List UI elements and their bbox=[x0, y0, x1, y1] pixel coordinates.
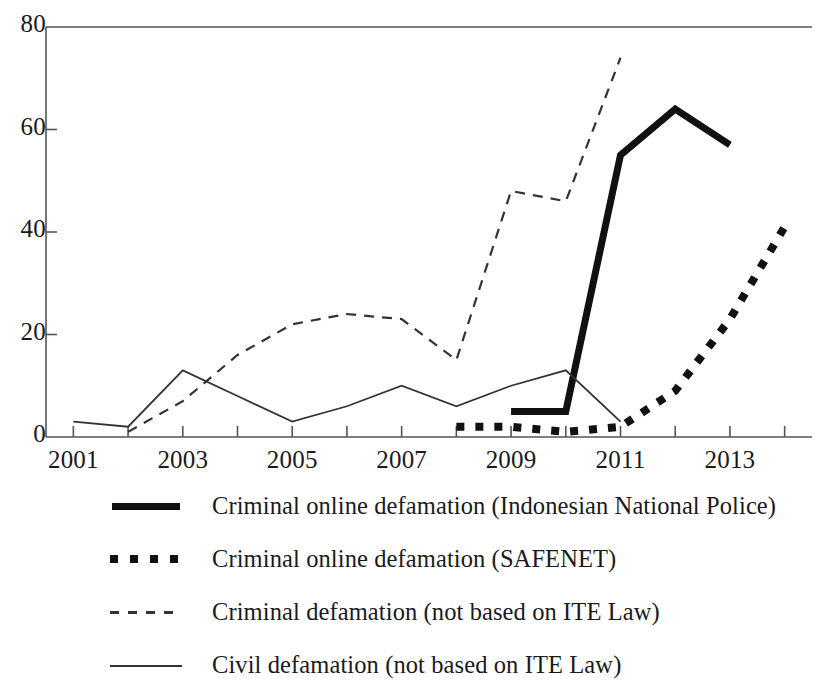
y-axis-tick-label: 80 bbox=[0, 10, 46, 38]
legend-item[interactable]: Criminal online defamation (Indonesian N… bbox=[108, 480, 776, 532]
legend-item[interactable]: Criminal defamation (not based on ITE La… bbox=[108, 586, 660, 638]
legend-dashed-line-icon bbox=[108, 602, 184, 622]
chart-axes bbox=[46, 27, 812, 437]
legend-item-label: Criminal defamation (not based on ITE La… bbox=[212, 598, 660, 626]
chart-page: 020406080 2001200320052007200920112013 C… bbox=[0, 0, 819, 695]
legend-sample-stroke bbox=[110, 611, 182, 614]
x-axis-tick-label: 2001 bbox=[28, 446, 118, 474]
chart-plot-area: 020406080 2001200320052007200920112013 bbox=[0, 0, 819, 480]
x-axis-tick-label: 2005 bbox=[247, 446, 337, 474]
series-line-1 bbox=[456, 227, 784, 432]
legend-sample-stroke bbox=[110, 555, 182, 563]
legend-sample-stroke bbox=[112, 503, 180, 510]
legend-item-label: Civil defamation (not based on ITE Law) bbox=[212, 651, 621, 679]
x-axis-ticks bbox=[73, 426, 784, 437]
y-axis-ticks bbox=[46, 130, 57, 335]
x-axis-tick-label: 2013 bbox=[685, 446, 775, 474]
y-axis-tick-label: 20 bbox=[0, 318, 46, 346]
x-axis-tick-label: 2009 bbox=[466, 446, 556, 474]
chart-legend: Criminal online defamation (Indonesian N… bbox=[0, 480, 819, 695]
x-axis-tick-label: 2007 bbox=[357, 446, 447, 474]
legend-item-label: Criminal online defamation (SAFENET) bbox=[212, 545, 616, 573]
legend-thick-solid-line-icon bbox=[108, 496, 184, 516]
legend-dotted-line-icon bbox=[108, 549, 184, 569]
y-axis-tick-label: 0 bbox=[0, 420, 46, 448]
legend-thin-solid-line-icon bbox=[108, 655, 184, 675]
legend-sample-stroke bbox=[110, 665, 182, 667]
chart-series-group bbox=[73, 58, 784, 432]
legend-item[interactable]: Criminal online defamation (SAFENET) bbox=[108, 533, 616, 585]
series-line-0 bbox=[511, 109, 730, 411]
x-axis-tick-label: 2011 bbox=[576, 446, 666, 474]
legend-item-label: Criminal online defamation (Indonesian N… bbox=[212, 492, 776, 520]
legend-item[interactable]: Civil defamation (not based on ITE Law) bbox=[108, 639, 621, 691]
y-axis-tick-label: 60 bbox=[0, 113, 46, 141]
series-line-3 bbox=[73, 370, 620, 426]
y-axis-tick-label: 40 bbox=[0, 215, 46, 243]
x-axis-tick-label: 2003 bbox=[138, 446, 228, 474]
line-chart-svg bbox=[0, 0, 819, 480]
